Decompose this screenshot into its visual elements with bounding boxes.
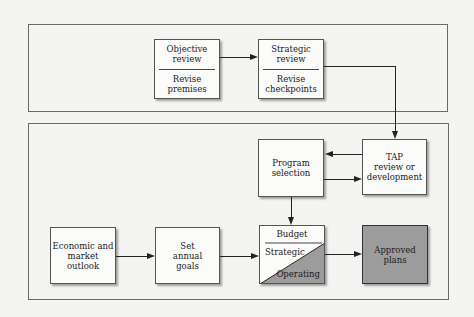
tap-review-box: TAP review or development <box>362 139 427 195</box>
connector-strategic-tap-h <box>324 66 396 67</box>
objective-review-label: Objective review <box>167 44 208 64</box>
arrowhead-right-icon <box>354 251 362 257</box>
revise-premises-label: Revise premises <box>167 74 206 94</box>
connector-tap-program <box>332 154 362 155</box>
budget-title: Budget <box>260 229 324 239</box>
approved-plans-box: Approved plans <box>362 225 428 284</box>
revise-checkpoints-label: Revise checkpoints <box>265 74 317 94</box>
connector-strategic-tap-v <box>395 66 396 131</box>
objective-review-box: Objective review Revise premises <box>154 39 220 99</box>
arrowhead-right-icon <box>147 253 155 259</box>
annual-goals-box: Set annual goals <box>155 227 220 284</box>
arrowhead-left-icon <box>325 151 333 157</box>
strategic-review-label: Strategic review <box>271 44 311 64</box>
connector-program-budget <box>291 197 292 217</box>
strategic-review-box: Strategic review Revise checkpoints <box>258 39 324 99</box>
economic-outlook-box: Economic and market outlook <box>50 227 116 284</box>
tap-review-label: TAP review or development <box>367 152 423 182</box>
connector-budget-approved <box>325 254 354 255</box>
annual-goals-label: Set annual goals <box>173 241 202 271</box>
arrowhead-right-icon <box>250 54 258 60</box>
program-selection-box: Program selection <box>258 139 324 197</box>
arrowhead-right-icon <box>251 253 259 259</box>
connector-program-tap <box>324 179 354 180</box>
arrowhead-down-icon <box>392 131 398 139</box>
top-group-frame <box>28 24 448 112</box>
program-selection-label: Program selection <box>272 158 311 178</box>
budget-box: Budget Strategic Operating <box>259 225 325 284</box>
connector-economic-goals <box>116 256 147 257</box>
economic-outlook-label: Economic and market outlook <box>53 241 114 271</box>
arrowhead-right-icon <box>354 176 362 182</box>
budget-strategic-label: Strategic <box>265 247 305 257</box>
connector-goals-budget <box>220 256 251 257</box>
budget-operating-label: Operating <box>276 269 320 279</box>
arrowhead-down-icon <box>288 217 294 225</box>
approved-plans-label: Approved plans <box>374 245 415 265</box>
connector-objective-strategic <box>220 57 250 58</box>
